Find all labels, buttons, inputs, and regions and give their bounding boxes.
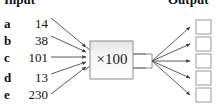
output-box-1[interactable]: [196, 20, 211, 34]
output-box-3[interactable]: [196, 54, 211, 68]
output-arrow-1: [152, 27, 190, 61]
output-box-2[interactable]: [196, 37, 211, 51]
output-box-4[interactable]: [196, 71, 211, 85]
output-arrows: [152, 27, 190, 95]
output-arrow-2: [152, 44, 190, 61]
output-arrow-5: [152, 61, 190, 95]
processing-diagram: Input Output a 14 b 38 c 101 d 13 e 230: [0, 0, 218, 108]
input-arrow-e: [51, 67, 86, 94]
output-arrow-4: [152, 61, 190, 78]
input-arrow-d: [51, 62, 86, 74]
processor-operation-label: ×100: [90, 52, 134, 67]
output-boxes: [196, 20, 211, 102]
input-arrow-b: [51, 36, 86, 52]
output-box-5[interactable]: [196, 88, 211, 102]
output-connector-stubs: [133, 54, 152, 68]
input-arrow-a: [51, 18, 86, 47]
input-arrows: [51, 18, 86, 94]
